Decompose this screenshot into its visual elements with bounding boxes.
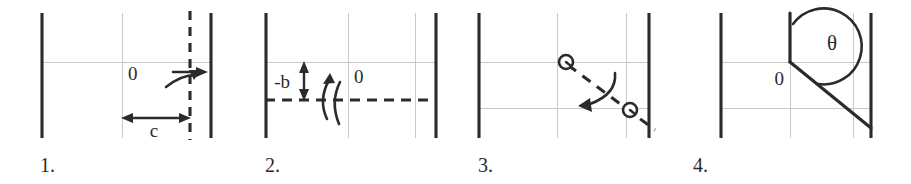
panel-1: 0 c 1.: [40, 11, 212, 176]
panel-3-node-upper: [559, 55, 573, 69]
panel-1-dimension-label: c: [150, 120, 158, 141]
panel-4-origin-label: 0: [775, 68, 785, 89]
panel-2-dimension-label: -b: [274, 71, 290, 92]
four-panel-diagram: 0 c 1.: [0, 0, 911, 184]
panel-2-origin-label: 0: [354, 66, 364, 87]
panel-3-dashed-diagonal: [568, 65, 655, 130]
panel-4-number: 4.: [693, 154, 708, 176]
panel-4-angle-label: θ: [827, 31, 837, 55]
panel-3-node-lower: [623, 103, 637, 117]
panel-2-dimension-arrow: [299, 61, 309, 101]
panel-4-diagonal-arm: [790, 62, 871, 128]
panel-2-number: 2.: [265, 154, 280, 176]
panel-3-number: 3.: [478, 154, 493, 176]
panel-1-origin-label: 0: [128, 63, 138, 84]
panel-1-number: 1.: [40, 154, 55, 176]
panel-3: 3.: [478, 13, 655, 176]
panel-3-rotation-arc: [578, 73, 615, 112]
panel-2: -b 0 2.: [265, 13, 437, 176]
figure-container: 0 c 1.: [0, 0, 911, 184]
panel-4: 0 θ 4.: [693, 8, 872, 176]
